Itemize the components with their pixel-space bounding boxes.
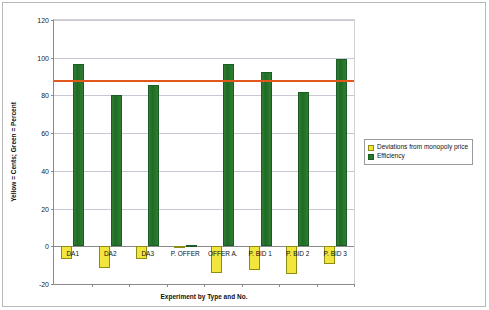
x-axis-label-p-bid-2: P. BID 2 [286,251,309,258]
bar-efficiency-offer-a [223,64,234,247]
legend-item-efficiency: Efficiency [368,152,468,161]
legend-label-efficiency: Efficiency [377,153,405,160]
x-axis-label-p-offer: P. OFFER [171,251,200,258]
y-tick-label: -20 [39,281,49,288]
reference-line-monopoly-price [54,80,354,82]
bar-efficiency-da1 [73,64,84,247]
bar-efficiency-p-bid-3 [336,59,347,247]
x-tick-mark [242,284,243,287]
y-tick-mark [51,171,54,172]
y-tick-mark [51,20,54,21]
y-tick-mark [51,246,54,247]
y-tick-label: 100 [37,54,49,61]
legend-swatch-yellow-icon [368,145,374,151]
plot-area: 120100806040200-20DA1DA2DA3P. OFFEROFFER… [53,19,355,285]
x-axis-label-da3: DA3 [141,251,154,258]
bar-efficiency-da2 [111,95,122,247]
bar-deviations-p-offer [174,246,185,248]
x-tick-mark [92,284,93,287]
legend-label-deviations: Deviations from monopoly price [377,144,468,151]
x-axis-label-da1: DA1 [66,251,79,258]
chart-container: Yellow = Cents; Green = Percent Experime… [0,0,489,310]
legend-swatch-green-icon [368,154,374,160]
y-tick-mark [51,133,54,134]
bar-efficiency-p-bid-2 [298,92,309,247]
x-axis-title: Experiment by Type and No. [161,293,248,300]
y-tick-mark [51,209,54,210]
legend-item-deviations: Deviations from monopoly price [368,143,468,152]
y-tick-label: 20 [41,205,49,212]
x-tick-mark [167,284,168,287]
chart-legend: Deviations from monopoly price Efficienc… [364,139,473,165]
y-tick-label: 80 [41,92,49,99]
y-tick-label: 0 [45,243,49,250]
y-tick-label: 60 [41,130,49,137]
x-axis-label-offer-a: OFFER A. [208,251,238,258]
y-tick-mark [51,58,54,59]
y-tick-mark [51,95,54,96]
bar-efficiency-da3 [148,85,159,246]
x-tick-mark [354,284,355,287]
bar-efficiency-p-bid-1 [261,72,272,247]
x-tick-mark [129,284,130,287]
gridline [54,58,354,59]
y-tick-label: 40 [41,167,49,174]
x-tick-mark [279,284,280,287]
bar-efficiency-p-offer [186,245,197,247]
y-tick-label: 120 [37,17,49,24]
y-axis-title: Yellow = Cents; Green = Percent [10,102,17,202]
y-tick-mark [51,284,54,285]
x-tick-mark [204,284,205,287]
x-axis-label-p-bid-3: P. BID 3 [324,251,347,258]
gridline [54,20,354,21]
x-axis-label-da2: DA2 [104,251,117,258]
x-tick-mark [317,284,318,287]
x-axis-label-p-bid-1: P. BID 1 [249,251,272,258]
